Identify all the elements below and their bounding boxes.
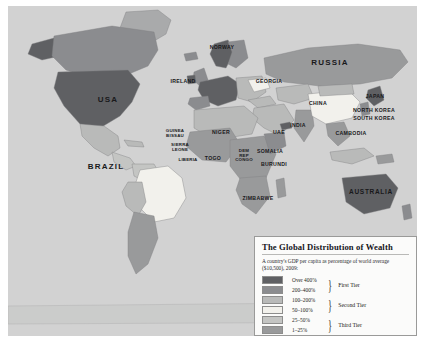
legend-tier-third-tier: }Third Tier [328,315,362,335]
legend-range-25-50: 25–50% [292,317,310,323]
country-madagascar [276,178,286,198]
legend-entries: Over 400%200–400%100–200%50–100%25–50%1–… [262,275,409,335]
legend-range-50-100: 50–100% [292,307,313,313]
country-mongolia [318,84,354,96]
legend-range-100-200: 100–200% [292,297,315,303]
legend-tier-first-tier: }First Tier [328,275,360,295]
country-spain [188,96,210,110]
region-middle-east [252,104,294,136]
country-peru [122,182,146,216]
legend-swatch-1-25 [262,326,283,334]
legend-swatch-over-400 [262,276,283,284]
region-southern-africa [236,176,270,214]
country-usa [54,70,140,128]
country-iceland [184,52,198,61]
country-indonesia [330,148,374,164]
legend-brace-second-tier: } [328,298,332,313]
country-russia [264,44,408,86]
legend-range-over-400: Over 400% [292,277,317,283]
country-mexico [80,124,120,156]
world-map: USABRAZILRUSSIAAUSTRALIANORWAYIRELANDGEO… [8,6,417,336]
legend-swatch-50-100 [262,306,283,314]
country-papua-new-guinea [376,154,394,164]
legend-swatch-200-400 [262,286,283,294]
legend-swatch-100-200 [262,296,283,304]
map-legend: The Global Distribution of Wealth A coun… [254,236,417,336]
legend-tier-second-tier: }Second Tier [328,295,366,315]
country-india [294,110,314,142]
legend-divider [262,254,409,255]
legend-swatch-25-50 [262,316,283,324]
legend-brace-first-tier: } [328,278,332,293]
legend-range-200-400: 200–400% [292,287,315,293]
legend-tier-label-third-tier: Third Tier [338,322,362,328]
legend-brace-third-tier: } [328,318,332,333]
legend-subtitle: A country's GDP per capita as percentage… [262,258,409,272]
legend-range-1-25: 1–25% [292,327,307,333]
country-argentina [128,212,158,274]
country-australia [342,174,398,214]
map-figure: USABRAZILRUSSIAAUSTRALIANORWAYIRELANDGEO… [0,0,425,350]
region-southeast-asia [326,122,350,146]
country-koreas [360,102,370,116]
legend-title: The Global Distribution of Wealth [262,242,409,252]
country-ireland [187,75,196,84]
legend-tier-label-second-tier: Second Tier [338,302,366,308]
country-japan [366,86,384,106]
legend-tier-label-first-tier: First Tier [338,282,359,288]
country-canada [52,26,158,78]
country-cuba [124,140,144,147]
country-new-zealand [402,204,412,220]
